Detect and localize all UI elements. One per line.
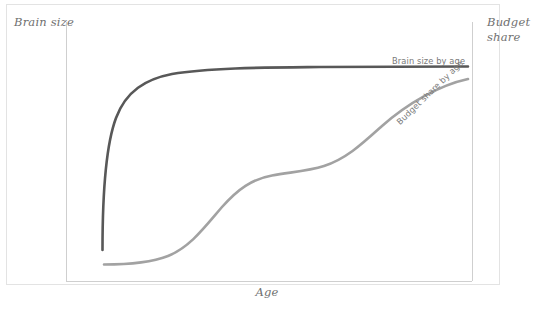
chart-page: Brain size Budget share Age Brain size b… bbox=[0, 0, 534, 315]
y-axis-right-label-line1: Budget bbox=[487, 15, 530, 29]
series-line-brain-size bbox=[103, 67, 469, 251]
x-axis-label: Age bbox=[0, 285, 534, 300]
y-axis-left-label: Brain size bbox=[14, 15, 59, 30]
y-axis-right-label: Budget share bbox=[487, 15, 531, 45]
y-axis-right-label-line2: share bbox=[487, 30, 520, 44]
chart-plot-area bbox=[0, 0, 534, 315]
